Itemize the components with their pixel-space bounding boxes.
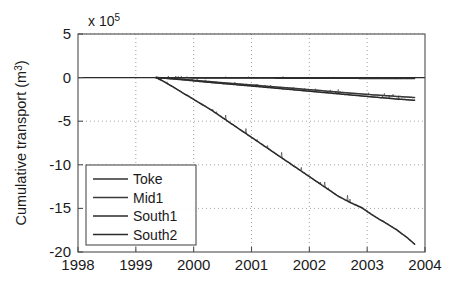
x-tick-label: 2002 [293,256,326,273]
y-tick-label: 0 [63,69,71,86]
y-tick-label: -15 [49,199,71,216]
chart-canvas: 1998199920002001200220032004 50-5-10-15-… [0,0,461,291]
y-tick-label: 5 [63,25,71,42]
y-axis-exponent-power: 5 [114,12,120,23]
x-tick-label: 2004 [408,256,441,273]
legend-label-toke: Toke [133,171,163,187]
legend-label-south1: South1 [133,208,178,224]
x-tick-label: 2000 [177,256,210,273]
y-tick-label: -20 [49,243,71,260]
y-axis-title: Cumulative transport (m3) [13,60,29,225]
y-tick-label: -5 [58,112,71,129]
legend-label-mid1: Mid1 [133,190,164,206]
x-tick-label: 1999 [119,256,152,273]
legend: TokeMid1South1South2 [86,165,196,245]
x-tick-label: 2003 [350,256,383,273]
x-tick-label: 2001 [235,256,268,273]
y-axis-exponent-prefix: x 10 [88,13,115,29]
y-tick-label: -10 [49,156,71,173]
legend-label-south2: South2 [133,227,178,243]
chart-figure: 1998199920002001200220032004 50-5-10-15-… [0,0,461,291]
